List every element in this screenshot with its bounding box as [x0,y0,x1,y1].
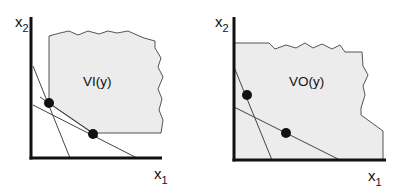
y-axis-label: x2 [15,13,29,34]
region-label: VO(y) [289,74,324,89]
y-axis-label: x2 [215,13,229,34]
feasible-region [234,43,383,160]
x-axis-label: x1 [368,167,382,188]
left-panel: x2x1VI(y) [15,13,168,186]
tangent-point-dot [281,128,291,138]
isoquant-diagram: x2x1VI(y)x2x1VO(y) [0,0,404,193]
tangent-point-dot [88,129,98,139]
tangent-point-dot [44,98,54,108]
x-axis-label: x1 [154,165,168,186]
region-label: VI(y) [83,74,112,89]
right-panel: x2x1VO(y) [215,13,386,188]
tangent-point-dot [242,90,252,100]
